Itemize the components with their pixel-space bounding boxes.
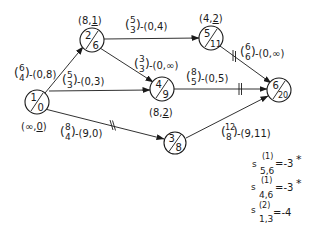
edge-2-5 bbox=[104, 38, 199, 39]
node-6-bottom: 20 bbox=[278, 91, 288, 100]
annotation-s56: s (1) 5,6 =-3 * bbox=[252, 152, 302, 176]
svg-text:(1): (1) bbox=[261, 176, 272, 185]
edge-label-4-6: ( 8 5 ) -(0,5) bbox=[186, 67, 228, 87]
svg-text:-(0,∞): -(0,∞) bbox=[149, 60, 178, 71]
edge-label-1-3: ( 8 4 ) -(9,0) bbox=[60, 122, 102, 142]
node-1-label: (∞,0) bbox=[21, 121, 47, 132]
node-1-top: 1 bbox=[31, 92, 37, 103]
node-3-bottom: 8 bbox=[176, 142, 182, 153]
node-5-bottom: 11 bbox=[210, 39, 221, 49]
node-6-top: 6 bbox=[273, 80, 279, 91]
node-1: 1 0 (∞,0) bbox=[21, 90, 49, 132]
node-4-top: 4 bbox=[156, 79, 162, 90]
svg-text:(: ( bbox=[134, 57, 139, 71]
edge-label-2-5: ( 5 3 ) -(0,4) bbox=[125, 15, 167, 35]
edge-label-1-2: ( 6 4 ) -(0,8) bbox=[14, 63, 56, 83]
svg-text:5: 5 bbox=[130, 15, 136, 25]
node-5-top: 5 bbox=[204, 28, 210, 39]
svg-text:-(0,∞): -(0,∞) bbox=[255, 48, 284, 59]
svg-text:5,6: 5,6 bbox=[260, 166, 275, 176]
svg-text:-(0,8): -(0,8) bbox=[29, 69, 56, 80]
node-4-label: (8,2) bbox=[149, 107, 173, 118]
node-4: 4 9 (8,2) bbox=[149, 77, 174, 118]
svg-text:(: ( bbox=[125, 18, 130, 32]
edge-1-4 bbox=[49, 90, 150, 91]
svg-text:5: 5 bbox=[191, 77, 197, 87]
svg-text:4,6: 4,6 bbox=[259, 190, 274, 200]
node-3-top: 3 bbox=[169, 133, 175, 144]
svg-text:(: ( bbox=[60, 125, 65, 139]
network-diagram: 1 0 (∞,0) 2 6 (8,1) 3 8 4 9 (8,2) 5 11 bbox=[0, 0, 317, 240]
node-2-bottom: 6 bbox=[93, 40, 99, 51]
diagram-svg: 1 0 (∞,0) 2 6 (8,1) 3 8 4 9 (8,2) 5 11 bbox=[0, 0, 317, 240]
svg-text:(1): (1) bbox=[262, 152, 273, 161]
svg-text:s: s bbox=[251, 182, 256, 192]
node-5: 5 11 (4,2) bbox=[199, 13, 223, 50]
svg-text:-(9,0): -(9,0) bbox=[75, 128, 102, 139]
annotation-s46: s (1) 4,6 =-3 * bbox=[251, 176, 302, 200]
svg-text:3: 3 bbox=[139, 54, 145, 64]
node-5-label: (4,2) bbox=[199, 13, 223, 24]
svg-text:(: ( bbox=[62, 73, 67, 87]
svg-text:*: * bbox=[296, 177, 302, 190]
edge-label-1-4: ( 5 3 ) -(0,3) bbox=[62, 70, 104, 90]
svg-text:-(0,5): -(0,5) bbox=[201, 73, 228, 84]
svg-text:3: 3 bbox=[130, 25, 136, 35]
node-2-top: 2 bbox=[85, 30, 91, 41]
node-6: 6 20 bbox=[267, 78, 291, 102]
svg-text:(: ( bbox=[240, 45, 245, 59]
svg-text:3: 3 bbox=[67, 80, 73, 90]
svg-text:*: * bbox=[296, 153, 302, 166]
annotation-s13: s (2) 1,3 =-4 bbox=[251, 201, 291, 224]
node-4-bottom: 9 bbox=[163, 89, 169, 100]
edge-label-2-4: ( 3 3 ) -(0,∞) bbox=[134, 54, 178, 74]
svg-text:-(0,3): -(0,3) bbox=[77, 76, 104, 87]
svg-text:-(9,11): -(9,11) bbox=[237, 128, 271, 139]
node-3: 3 8 bbox=[164, 132, 186, 154]
edge-label-3-6: ( 12 8 ) -(9,11) bbox=[221, 123, 271, 142]
svg-text:=-3: =-3 bbox=[275, 158, 293, 169]
svg-text:(2): (2) bbox=[259, 201, 270, 210]
svg-text:(: ( bbox=[14, 66, 19, 80]
svg-text:(: ( bbox=[186, 70, 191, 84]
node-2: 2 6 (8,1) bbox=[78, 15, 104, 52]
svg-text:5: 5 bbox=[67, 70, 73, 80]
svg-text:-(0,4): -(0,4) bbox=[140, 21, 167, 32]
svg-text:s: s bbox=[252, 159, 257, 169]
svg-text:3: 3 bbox=[139, 64, 145, 74]
edge-label-5-6: ( 6 6 ) -(0,∞) bbox=[240, 42, 284, 62]
node-1-bottom: 0 bbox=[38, 102, 44, 113]
node-2-label: (8,1) bbox=[78, 15, 102, 26]
svg-text:s: s bbox=[251, 205, 256, 215]
svg-text:8: 8 bbox=[226, 132, 232, 142]
svg-text:=-4: =-4 bbox=[273, 207, 291, 218]
svg-text:=-3: =-3 bbox=[275, 182, 293, 193]
svg-text:1,3: 1,3 bbox=[259, 214, 273, 224]
